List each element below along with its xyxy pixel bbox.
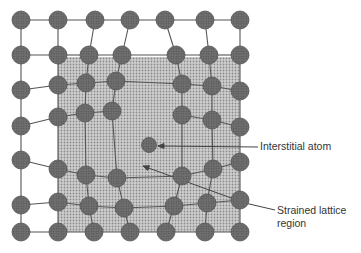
lattice-atom [231, 46, 249, 64]
lattice-atom [49, 46, 67, 64]
lattice-atom [167, 46, 185, 64]
strained-lattice-text-line2: region [277, 217, 346, 230]
lattice-atom [12, 46, 30, 64]
lattice-atom [231, 118, 249, 136]
lattice-atom [12, 11, 30, 29]
lattice-atom [231, 191, 249, 209]
lattice-atom [173, 106, 191, 124]
interstitial-atom [142, 138, 157, 153]
lattice-atom [115, 199, 133, 217]
lattice-atom [121, 11, 139, 29]
lattice-atom [49, 76, 67, 94]
lattice-atom [165, 197, 183, 215]
interstitial-atom-label: Interstitial atom [260, 140, 331, 153]
lattice-atom [12, 81, 30, 99]
lattice-atom [103, 102, 121, 120]
lattice-atom [198, 194, 216, 212]
lattice-atom [76, 104, 94, 122]
lattice-atom [231, 82, 249, 100]
lattice-atom [121, 223, 139, 241]
strained-lattice-label: Strained lattice region [277, 204, 346, 230]
lattice-atom [49, 108, 67, 126]
lattice-atom [113, 46, 131, 64]
lattice-atom [157, 223, 175, 241]
lattice-atom [203, 77, 221, 95]
lattice-atom [231, 223, 249, 241]
lattice-atom [49, 160, 67, 178]
lattice-atom [203, 111, 221, 129]
lattice-atom [49, 193, 67, 211]
lattice-atom [80, 197, 98, 215]
lattice-atom [49, 223, 67, 241]
lattice-atom [12, 151, 30, 169]
lattice-atom [107, 72, 125, 90]
lattice-atom [49, 11, 67, 29]
lattice-atom [196, 11, 214, 29]
lattice-atom [200, 46, 218, 64]
lattice-atom [108, 169, 126, 187]
lattice-atom [231, 153, 249, 171]
lattice-atom [12, 223, 30, 241]
lattice-atom [173, 75, 191, 93]
lattice-atom [12, 117, 30, 135]
lattice-atom [231, 11, 249, 29]
lattice-atom [173, 167, 191, 185]
lattice-atom [77, 74, 95, 92]
lattice-atom [77, 166, 95, 184]
strained-lattice-text-line1: Strained lattice [277, 204, 346, 217]
interstitial-atom-text: Interstitial atom [260, 140, 331, 152]
lattice-atom [12, 196, 30, 214]
lattice-atom [80, 46, 98, 64]
lattice-atom [85, 223, 103, 241]
lattice-atom [86, 11, 104, 29]
lattice-atom [196, 223, 214, 241]
lattice-atom [204, 160, 222, 178]
lattice-atom [156, 11, 174, 29]
